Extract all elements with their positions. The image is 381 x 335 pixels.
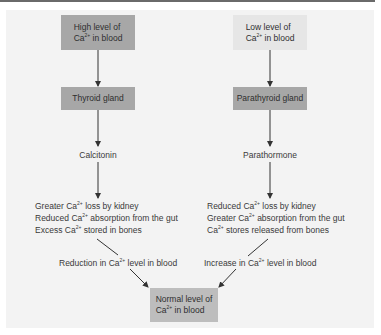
high-calcium-box: High level of Ca2+ in blood — [61, 15, 135, 50]
right-effect-1: Reduced Ca2+ loss by kidney — [207, 200, 316, 212]
reduction-result-label: Reduction in Ca2+ level in blood — [59, 257, 177, 269]
right-effect-3: Ca2+ stores released from bones — [207, 224, 329, 236]
top-border — [0, 0, 375, 2]
thyroid-gland-label: Thyroid gland — [72, 93, 124, 104]
parathormone-label: Parathormone — [230, 149, 310, 161]
thyroid-gland-box: Thyroid gland — [61, 87, 135, 110]
parathyroid-gland-box: Parathyroid gland — [233, 87, 307, 110]
normal-calcium-box: Normal level of Ca2+ in blood — [150, 288, 218, 322]
low-calcium-line1: Low level of — [246, 22, 291, 32]
left-effect-1: Greater Ca2+ loss by kidney — [35, 200, 139, 212]
diagram-panel — [6, 10, 374, 328]
left-effect-3: Excess Ca2+ stored in bones — [35, 224, 142, 236]
high-calcium-line1: High level of — [74, 22, 121, 32]
left-effect-2: Reduced Ca2+ absorption from the gut — [35, 212, 178, 224]
calcitonin-label: Calcitonin — [58, 149, 138, 161]
low-calcium-box: Low level of Ca2+ in blood — [233, 15, 307, 50]
increase-result-label: Increase in Ca2+ level in blood — [204, 257, 317, 269]
parathyroid-gland-label: Parathyroid gland — [237, 93, 304, 104]
right-effect-2: Greater Ca2+ absorption from the gut — [207, 212, 345, 224]
